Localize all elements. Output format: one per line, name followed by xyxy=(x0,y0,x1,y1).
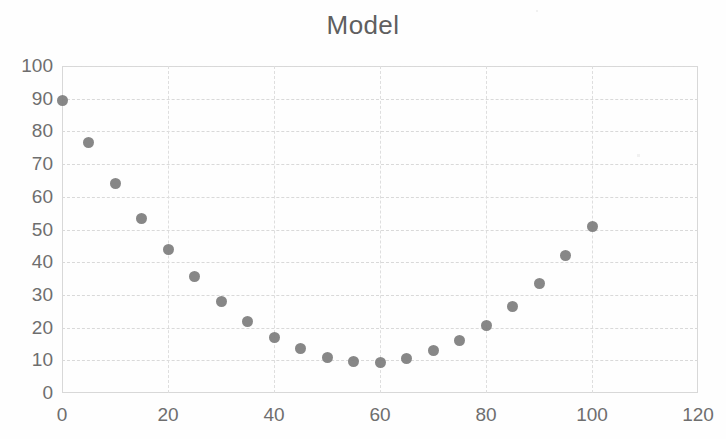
scatter-point xyxy=(322,352,333,363)
plot-area xyxy=(62,66,698,393)
gridline-vertical xyxy=(168,66,169,393)
x-tick-label: 0 xyxy=(32,404,92,426)
scatter-point xyxy=(534,278,545,289)
scatter-point xyxy=(242,316,253,327)
scatter-point xyxy=(57,95,68,106)
scatter-point xyxy=(401,353,412,364)
scatter-point xyxy=(136,213,147,224)
y-tick-label: 40 xyxy=(32,251,53,273)
x-tick-label: 100 xyxy=(562,404,622,426)
y-tick-label: 0 xyxy=(42,382,53,404)
y-tick-label: 60 xyxy=(32,186,53,208)
y-tick-label: 10 xyxy=(32,349,53,371)
y-tick-label: 20 xyxy=(32,317,53,339)
scatter-point xyxy=(269,332,280,343)
gridline-vertical xyxy=(274,66,275,393)
y-tick-label: 80 xyxy=(32,120,53,142)
x-tick-label: 20 xyxy=(138,404,198,426)
y-tick-label: 70 xyxy=(32,153,53,175)
scatter-point xyxy=(110,178,121,189)
x-tick-label: 120 xyxy=(668,404,726,426)
y-tick-label: 50 xyxy=(32,219,53,241)
y-tick-label: 100 xyxy=(21,55,53,77)
chart-container: Model 0102030405060708090100 02040608010… xyxy=(0,0,726,439)
scatter-point xyxy=(163,244,174,255)
x-tick-label: 60 xyxy=(350,404,410,426)
y-tick-label: 90 xyxy=(32,88,53,110)
scatter-point xyxy=(481,320,492,331)
scan-artifact xyxy=(536,10,538,12)
scatter-point xyxy=(587,221,598,232)
scatter-point xyxy=(428,345,439,356)
chart-title: Model xyxy=(0,8,726,42)
gridline-vertical xyxy=(486,66,487,393)
scatter-point xyxy=(507,301,518,312)
x-tick-label: 40 xyxy=(244,404,304,426)
x-tick-label: 80 xyxy=(456,404,516,426)
scatter-point xyxy=(375,357,386,368)
y-tick-label: 30 xyxy=(32,284,53,306)
gridline-vertical xyxy=(380,66,381,393)
scatter-point xyxy=(216,296,227,307)
